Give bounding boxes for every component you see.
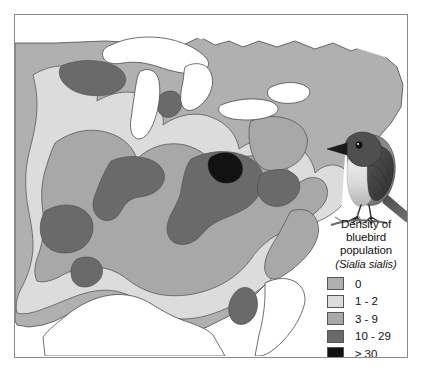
legend-label-10-29: 10 - 29 bbox=[355, 330, 391, 342]
legend-swatch-10-29 bbox=[327, 330, 344, 343]
legend-entry-4: ≥ 30 bbox=[314, 345, 408, 358]
legend-swatch-1-2 bbox=[327, 295, 344, 308]
legend-label-3-9: 3 - 9 bbox=[355, 313, 378, 325]
legend-label-30-plus: ≥ 30 bbox=[355, 348, 377, 358]
bird-eye-highlight bbox=[357, 143, 359, 145]
legend-label-1-2: 1 - 2 bbox=[355, 295, 378, 307]
legend-label-0: 0 bbox=[355, 278, 361, 290]
legend-scientific-name: (Sialia sialis) bbox=[314, 258, 408, 271]
legend-title-line-2: bluebird bbox=[314, 231, 408, 244]
legend-entry-2: 3 - 9 bbox=[314, 310, 408, 328]
bird-head bbox=[345, 132, 382, 166]
legend-title-line-3: population bbox=[314, 244, 408, 257]
legend-swatch-0 bbox=[327, 277, 344, 290]
map-legend: Density of bluebird population (Sialia s… bbox=[314, 218, 408, 358]
bluebird-illustration bbox=[321, 121, 408, 227]
legend-entry-1: 1 - 2 bbox=[314, 292, 408, 310]
legend-entry-3: 10 - 29 bbox=[314, 328, 408, 346]
map-frame: Density of bluebird population (Sialia s… bbox=[14, 14, 408, 358]
bluebird-density-figure: Density of bluebird population (Sialia s… bbox=[0, 0, 422, 384]
legend-swatch-3-9 bbox=[327, 312, 344, 325]
legend-swatch-30-plus bbox=[327, 347, 344, 358]
legend-entry-list: 0 1 - 2 3 - 9 10 - 29 ≥ 30 bbox=[314, 275, 408, 358]
bird-beak bbox=[327, 143, 347, 155]
northern-border-white bbox=[15, 15, 406, 35]
legend-title-line-1: Density of bbox=[314, 218, 408, 231]
legend-entry-0: 0 bbox=[314, 275, 408, 293]
bird-eye bbox=[356, 142, 363, 149]
